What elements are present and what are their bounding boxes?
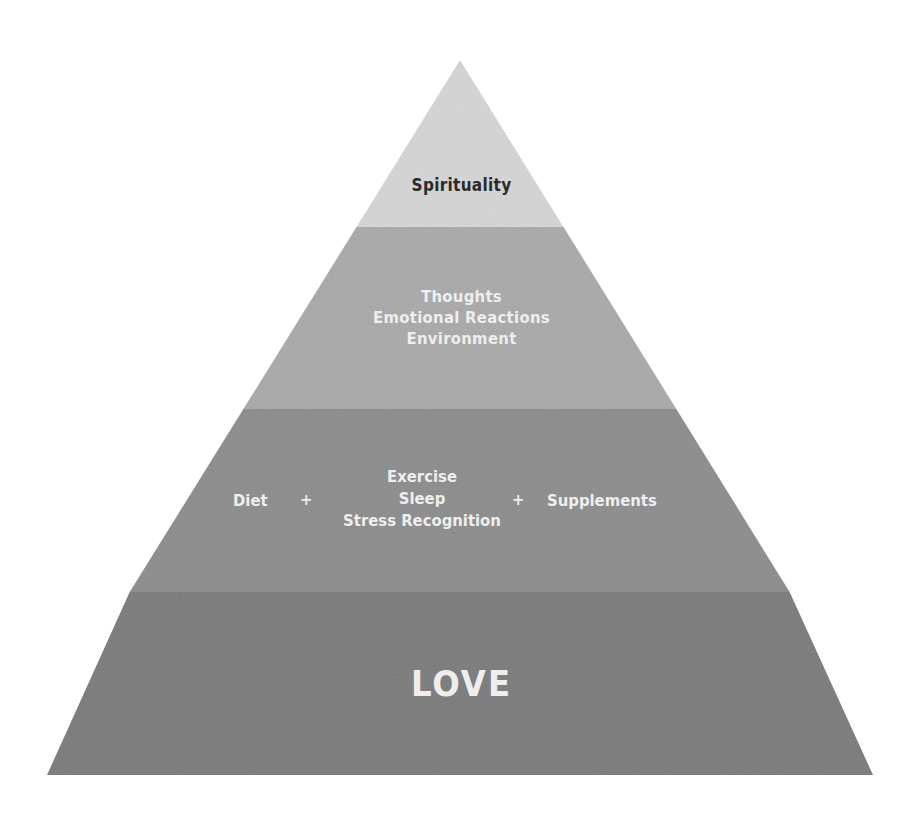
tier-middle-lower-label: Diet + Exercise Sleep Stress Recognition… <box>0 466 923 538</box>
love-text: LOVE <box>411 663 512 704</box>
stress-recognition-text: Stress Recognition <box>322 510 522 532</box>
emotional-reactions-text: Emotional Reactions <box>0 307 923 328</box>
thoughts-text: Thoughts <box>0 286 923 307</box>
tier-middle-lower-center-group: Exercise Sleep Stress Recognition <box>322 466 522 532</box>
tier-base-label: LOVE <box>0 660 923 709</box>
tier-middle-upper-label: Thoughts Emotional Reactions Environment <box>0 286 923 349</box>
plus-operator-right: + <box>512 490 524 509</box>
supplements-text: Supplements <box>547 491 657 510</box>
sleep-text: Sleep <box>322 488 522 510</box>
tier-top-label: Spirituality <box>0 174 923 197</box>
environment-text: Environment <box>0 328 923 349</box>
tier-top-shape <box>357 60 564 227</box>
diet-text: Diet <box>233 491 268 510</box>
exercise-text: Exercise <box>322 466 522 488</box>
spirituality-text: Spirituality <box>412 175 512 195</box>
plus-operator-left: + <box>300 490 312 509</box>
